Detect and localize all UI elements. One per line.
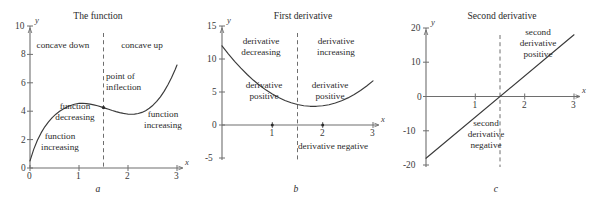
- x-tick-c-1: 1: [473, 100, 478, 110]
- y-tick-a-2: 2: [21, 135, 26, 145]
- panel-a-title: The function: [48, 10, 148, 21]
- annotation-function-increasing-left: function increasing: [30, 131, 90, 153]
- x-tick-b-3: 3: [370, 128, 375, 138]
- panel-the-function: The function y x 0 2 4 6 8 10 0 1 2 3 co…: [0, 0, 196, 200]
- y-tick-c-neg20: -20: [403, 160, 416, 170]
- annotation-concave-down: concave down: [26, 40, 100, 51]
- annotation-point-of-inflection: point of inflection: [106, 71, 160, 93]
- x-tick-c-3: 3: [571, 100, 576, 110]
- x-axis-label-c: x: [582, 85, 586, 95]
- annotation-derivative-negative: derivative negative: [298, 141, 394, 152]
- y-tick-a-8: 8: [21, 49, 26, 59]
- panel-b-title: First derivative: [248, 10, 358, 21]
- figure-three-panel-calculus: The function y x 0 2 4 6 8 10 0 1 2 3 co…: [0, 0, 595, 200]
- panel-c-title: Second derivative: [440, 10, 564, 21]
- y-axis-label-a: y: [35, 15, 39, 25]
- x-tick-b-1: 1: [270, 128, 275, 138]
- annotation-function-increasing-right: function increasing: [133, 109, 193, 131]
- panel-letter-b: b: [276, 183, 316, 194]
- annotation-function-decreasing: function decreasing: [44, 101, 106, 123]
- y-axis-label-c: y: [431, 17, 435, 27]
- y-tick-a-10: 10: [15, 21, 24, 31]
- annotation-concave-up: concave up: [109, 40, 175, 51]
- annotation-second-derivative-negative: second derivative negative: [454, 118, 518, 151]
- root-marker-left: [271, 124, 274, 127]
- y-tick-a-0: 0: [21, 163, 26, 173]
- y-tick-c-10: 10: [411, 57, 420, 67]
- y-axis-label-b: y: [227, 15, 231, 25]
- y-tick-b-neg5: -5: [205, 153, 213, 163]
- y-tick-a-4: 4: [21, 106, 26, 116]
- annotation-derivative-decreasing: derivative decreasing: [229, 36, 293, 58]
- panel-letter-c: c: [476, 183, 516, 194]
- root-marker-right: [321, 124, 324, 127]
- y-tick-c-20: 20: [411, 23, 420, 33]
- y-tick-c-neg10: -10: [403, 126, 416, 136]
- y-tick-b-10: 10: [207, 54, 216, 64]
- panel-b-plot: [196, 0, 396, 200]
- y-tick-b-0: 0: [212, 120, 217, 130]
- x-tick-a-2: 2: [125, 171, 130, 181]
- x-axis-label-a: x: [185, 157, 189, 167]
- x-axis-label-b: x: [381, 114, 385, 124]
- y-tick-a-6: 6: [21, 78, 26, 88]
- x-tick-a-3: 3: [174, 171, 179, 181]
- annotation-derivative-positive-right: derivative positive: [300, 80, 360, 102]
- x-tick-a-0: 0: [27, 171, 32, 181]
- y-tick-c-0: 0: [417, 92, 422, 102]
- panel-a-plot: [0, 0, 196, 200]
- panel-letter-a: a: [78, 183, 118, 194]
- panel-first-derivative: First derivative y x -5 0 5 10 15 1 2 3 …: [196, 0, 396, 200]
- x-tick-c-2: 2: [522, 100, 527, 110]
- x-tick-a-1: 1: [76, 171, 81, 181]
- annotation-second-derivative-positive: second derivative positive: [506, 27, 570, 60]
- y-tick-b-5: 5: [212, 87, 217, 97]
- annotation-derivative-positive-left: derivative positive: [234, 80, 294, 102]
- x-tick-b-2: 2: [320, 128, 325, 138]
- panel-second-derivative: Second derivative y x -20 -10 0 10 20 1 …: [396, 0, 595, 200]
- y-tick-b-15: 15: [207, 21, 216, 31]
- annotation-derivative-increasing: derivative increasing: [304, 36, 368, 58]
